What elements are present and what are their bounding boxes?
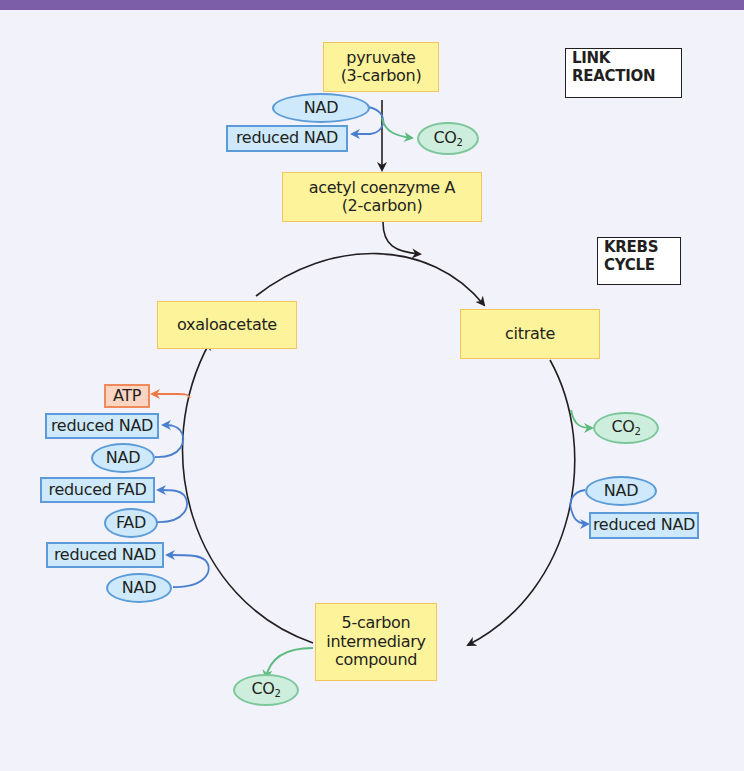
- left-nad-oval-1: NAD: [91, 443, 155, 473]
- acetyl-coa-text: acetyl coenzyme A: [309, 179, 456, 197]
- reduced-nad-text: reduced NAD: [236, 129, 338, 147]
- oxaloacetate-box: oxaloacetate: [157, 301, 297, 349]
- label-line: KREBS: [604, 238, 658, 256]
- five-carbon-text: intermediary: [326, 633, 425, 651]
- co2-text: CO2: [611, 418, 640, 438]
- right-co2-oval: CO2: [593, 412, 659, 444]
- arrow-left-nad-1: [155, 425, 183, 457]
- arc-5carbon-to-oxaloacetate: [183, 342, 313, 643]
- link-reaction-label: LINK REACTION: [565, 48, 682, 98]
- link-reduced-nad-box: reduced NAD: [226, 125, 348, 152]
- arrow-atp: [152, 394, 190, 398]
- reduced-nad-text: reduced NAD: [54, 546, 156, 564]
- five-carbon-text: 5-carbon: [342, 614, 411, 632]
- left-reduced-nad-box-2: reduced NAD: [46, 542, 164, 568]
- fad-oval: FAD: [104, 508, 158, 538]
- nad-text: NAD: [122, 579, 156, 597]
- arc-oxaloacetate-to-citrate: [256, 254, 484, 305]
- arrow-left-nad-2: [167, 555, 209, 587]
- citrate-text: citrate: [505, 325, 555, 343]
- co2-text: CO2: [433, 129, 462, 149]
- reduced-fad-box: reduced FAD: [40, 477, 155, 503]
- reduced-nad-text: reduced NAD: [51, 417, 153, 435]
- five-carbon-text: compound: [335, 651, 417, 669]
- bottom-co2-oval: CO2: [233, 674, 299, 706]
- arrow-acetyl-into-cycle: [383, 222, 420, 254]
- nad-text: NAD: [304, 99, 338, 117]
- label-line: LINK: [572, 49, 610, 67]
- five-carbon-box: 5-carbon intermediary compound: [315, 603, 437, 681]
- left-reduced-nad-box-1: reduced NAD: [45, 413, 159, 439]
- arrow-link-co2: [382, 118, 412, 138]
- link-nad-oval: NAD: [272, 93, 370, 123]
- atp-text: ATP: [113, 387, 141, 405]
- nad-text: NAD: [106, 449, 140, 467]
- label-line: REACTION: [572, 67, 655, 85]
- right-nad-oval: NAD: [585, 476, 657, 506]
- right-reduced-nad-box: reduced NAD: [589, 512, 699, 539]
- label-line: CYCLE: [604, 256, 655, 274]
- pyruvate-carbon-text: (3-carbon): [341, 67, 422, 85]
- krebs-cycle-label: KREBS CYCLE: [597, 237, 681, 285]
- acetyl-coa-carbon-text: (2-carbon): [342, 197, 423, 215]
- nad-text: NAD: [604, 482, 638, 500]
- atp-box: ATP: [104, 384, 150, 408]
- pyruvate-text: pyruvate: [346, 49, 415, 67]
- co2-text: CO2: [251, 680, 280, 700]
- reduced-fad-text: reduced FAD: [49, 481, 147, 499]
- arrow-left-fad: [157, 490, 187, 522]
- arrow-right-co2: [571, 410, 592, 428]
- left-nad-oval-2: NAD: [106, 573, 172, 603]
- acetyl-coa-box: acetyl coenzyme A (2-carbon): [282, 172, 482, 222]
- pyruvate-box: pyruvate (3-carbon): [323, 42, 439, 92]
- link-co2-oval: CO2: [417, 122, 479, 155]
- fad-text: FAD: [116, 514, 146, 532]
- citrate-box: citrate: [460, 309, 600, 359]
- oxaloacetate-text: oxaloacetate: [177, 316, 277, 334]
- arc-citrate-to-5carbon: [468, 360, 575, 645]
- reduced-nad-text: reduced NAD: [593, 516, 695, 534]
